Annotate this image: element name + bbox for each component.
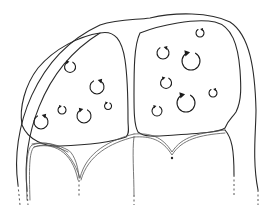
left-protoplast-membrane [21, 32, 128, 146]
circular-arrow-icon [105, 102, 112, 110]
left-wall-continuation [18, 185, 20, 205]
circular-arrow-icon [209, 88, 217, 97]
middle-lower-wall-a [134, 130, 225, 152]
circular-arrow-icon [196, 28, 204, 37]
circular-arrow-icon [58, 105, 66, 114]
right-lower-wall [225, 130, 234, 175]
junction-right-curve-a [80, 134, 134, 178]
diagram-container [0, 0, 266, 209]
circular-arrow-icon [90, 79, 104, 94]
cell-diagram [0, 0, 266, 209]
left-lower-wall-b [29, 145, 68, 200]
junction-left-curve-b [34, 146, 78, 180]
circular-arrow-icon [157, 46, 169, 59]
circular-arrow-icon [182, 50, 200, 70]
streaming-arrows-group [34, 28, 217, 129]
circular-arrow-icon [152, 105, 162, 116]
junction-dot [171, 157, 173, 159]
left-lower-wall-a [27, 143, 79, 200]
right-protoplast-membrane [134, 21, 241, 136]
circular-arrow-icon [161, 76, 172, 88]
circular-arrow-icon [77, 108, 91, 123]
circular-arrow-icon [177, 92, 195, 112]
center-lower-wall [133, 137, 134, 195]
junction-right-curve-b [81, 137, 134, 180]
